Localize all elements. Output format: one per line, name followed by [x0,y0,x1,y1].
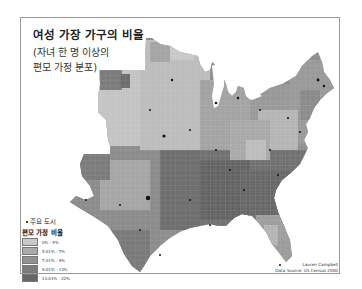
legend-cities-label: 주요 도시 [30,218,56,226]
legend-label: 5.01% - 7% [42,249,65,254]
legend-swatch [22,238,38,246]
legend-class-1: 0% - 5% [22,238,70,246]
legend-heading: 편모 가정 비율 [22,227,70,237]
legend-swatch [22,247,38,255]
legend-swatch [22,274,38,282]
legend-label: 13.01% - 22% [42,276,70,281]
map-legend: 주요 도시 편모 가정 비율 0% - 5% 5.01% - 7% 7.01% … [22,216,70,282]
legend-class-5: 13.01% - 22% [22,274,70,282]
legend-label: 0% - 5% [42,240,59,245]
dot-icon [26,221,28,223]
legend-class-3: 7.01% - 9% [22,256,70,264]
author-credit: Lauren Campbell [302,262,338,267]
map-subtitle-line1: (자녀 한 명 이상의 [33,44,109,59]
legend-label: 7.01% - 9% [42,258,65,263]
legend-major-cities: 주요 도시 [26,216,70,226]
legend-label: 9.01% - 13% [42,267,68,272]
lake-superior [178,40,204,50]
data-source: Data Source: US Census 2000 [275,268,338,273]
legend-swatch [22,265,38,273]
map-title: 여성 가장 가구의 비율 [33,26,144,42]
legend-class-2: 5.01% - 7% [22,247,70,255]
legend-swatch [22,256,38,264]
legend-class-4: 9.01% - 13% [22,265,70,273]
map-subtitle-line2: 편모 가정 분포) [33,59,97,74]
